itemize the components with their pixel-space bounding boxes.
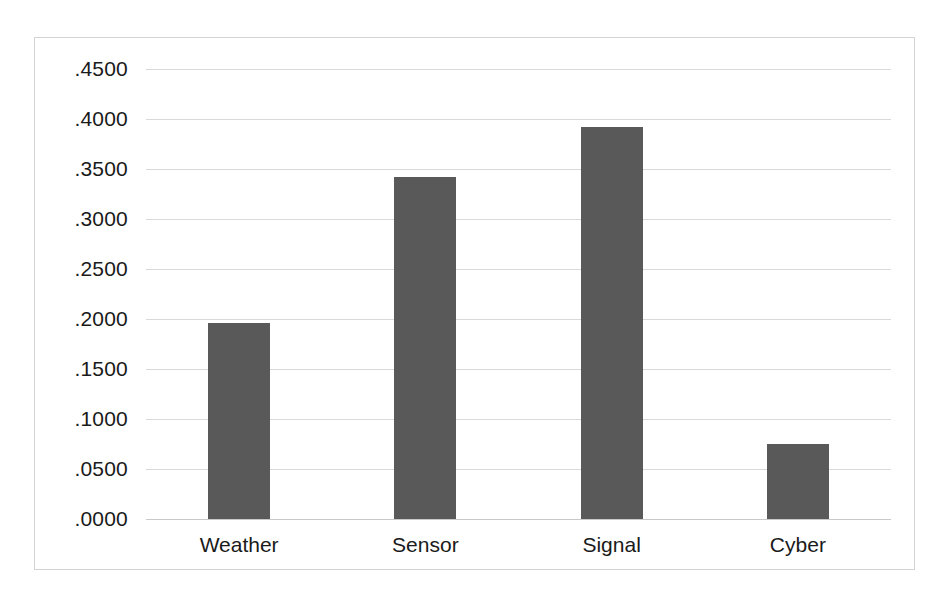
y-axis-tick-label: .1500 [74,357,128,381]
y-axis-tick-label: .4000 [74,107,128,131]
x-axis-tick-label: Sensor [392,533,459,557]
y-axis-tick-label: .3000 [74,207,128,231]
y-axis-tick-label: .0500 [74,457,128,481]
y-axis-tick-label: .1000 [74,407,128,431]
y-axis-tick-label: .2500 [74,257,128,281]
plot-area: .4500.4000.3500.3000.2500.2000.1500.1000… [146,69,891,519]
bar [767,444,829,519]
y-axis-tick-label: .4500 [74,57,128,81]
gridline: .0000 [146,519,891,520]
y-axis-tick-label: .3500 [74,157,128,181]
bar-series: WeatherSensorSignalCyber [146,69,891,519]
bar-group: Cyber [705,69,891,519]
x-axis-tick-label: Weather [200,533,279,557]
y-axis-tick-label: .2000 [74,307,128,331]
bar-group: Weather [146,69,332,519]
bar [394,177,456,519]
bar [581,127,643,519]
chart-frame: .4500.4000.3500.3000.2500.2000.1500.1000… [34,37,915,570]
x-axis-tick-label: Signal [582,533,640,557]
y-axis-tick-label: .0000 [74,507,128,531]
x-axis-tick-label: Cyber [770,533,826,557]
bar-group: Signal [519,69,705,519]
bar [208,323,270,519]
bar-group: Sensor [332,69,518,519]
